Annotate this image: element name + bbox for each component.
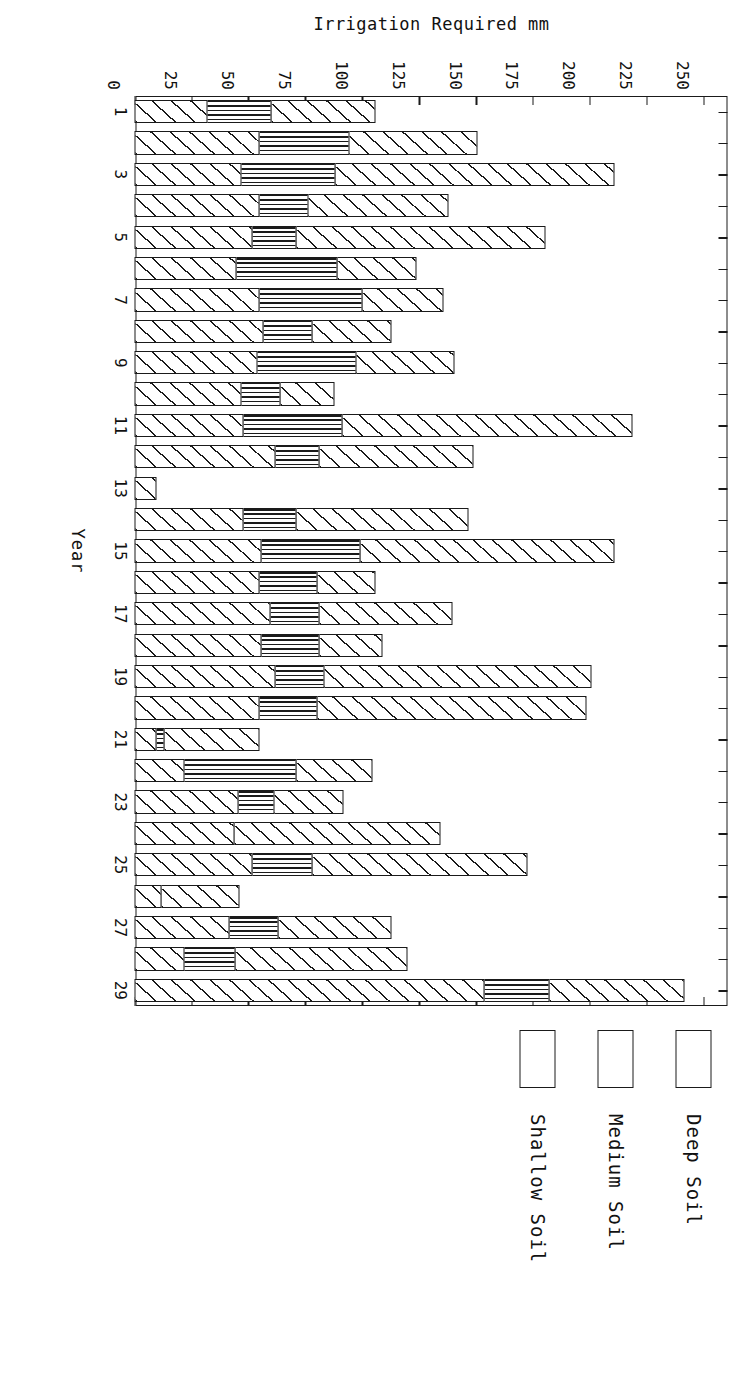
legend-label: Shallow Soil — [526, 1114, 548, 1263]
bar-segment-shallow-soil — [134, 100, 207, 123]
bar-segment-deep-soil — [318, 445, 473, 468]
bar-stack — [135, 226, 549, 249]
bar-segment-deep-soil — [277, 916, 391, 939]
bar-segment-medium-soil — [237, 790, 273, 813]
category-tick-label: 17 — [110, 604, 129, 623]
value-tick-label: 50 — [217, 71, 236, 90]
bar-stack — [135, 131, 481, 154]
bar-segment-shallow-soil — [134, 477, 157, 500]
legend-swatch-deep-soil — [675, 1030, 711, 1088]
bar-segment-medium-soil — [258, 571, 317, 594]
bar-segment-medium-soil — [258, 696, 317, 719]
category-tick-label: 29 — [110, 981, 129, 1000]
bar-segment-shallow-soil — [134, 947, 184, 970]
bar-stack — [135, 382, 338, 405]
legend-item: Shallow Soil — [519, 1030, 555, 1360]
bar-segment-medium-soil — [483, 979, 549, 1002]
bar-stack — [135, 445, 477, 468]
bar-segment-medium-soil — [235, 257, 337, 280]
category-tick-label: 11 — [110, 416, 129, 435]
bar-stack — [135, 163, 618, 186]
bar-segment-medium-soil — [258, 194, 308, 217]
value-tick-label: 25 — [160, 71, 179, 90]
bar-segment-medium-soil — [183, 947, 235, 970]
bar-segment-deep-soil — [279, 382, 334, 405]
bar-segment-shallow-soil — [134, 288, 259, 311]
bar-segment-shallow-soil — [134, 320, 264, 343]
value-tick-label: 150 — [445, 61, 464, 90]
value-tick-label: 100 — [331, 61, 350, 90]
bar-stack — [135, 790, 347, 813]
bar-stack — [135, 822, 442, 845]
bar-segment-deep-soil — [272, 790, 343, 813]
legend-item: Deep Soil — [675, 1030, 711, 1360]
bar-stack — [135, 759, 376, 782]
category-axis-title: Year — [67, 96, 87, 1006]
bar-segment-deep-soil — [295, 226, 545, 249]
bar-segment-shallow-soil — [134, 257, 236, 280]
value-tick-label: 225 — [616, 61, 635, 90]
figure: Irrigation Required mm 02550751001251501… — [0, 0, 749, 1374]
bar-segment-shallow-soil — [134, 665, 275, 688]
value-tick-label: 75 — [274, 71, 293, 90]
bar-segment-deep-soil — [233, 822, 440, 845]
category-tick-label: 23 — [110, 792, 129, 811]
value-tick-label: 175 — [502, 61, 521, 90]
bar-segment-medium-soil — [258, 288, 363, 311]
bar-stack — [135, 947, 411, 970]
bar-stack — [135, 696, 590, 719]
bar-stack — [135, 634, 385, 657]
bar-stack — [135, 508, 472, 531]
bar-segment-medium-soil — [228, 916, 278, 939]
value-tick-label: 250 — [673, 61, 692, 90]
bar-segment-shallow-soil — [134, 885, 161, 908]
bar-segment-shallow-soil — [134, 634, 262, 657]
bar-stack — [135, 539, 618, 562]
bar-segment-shallow-soil — [134, 539, 262, 562]
chart-page: Irrigation Required mm 02550751001251501… — [0, 0, 749, 1374]
bar-segment-medium-soil — [239, 163, 335, 186]
bar-segment-shallow-soil — [134, 853, 252, 876]
value-tick-label: 125 — [388, 61, 407, 90]
bar-segment-shallow-soil — [134, 351, 257, 374]
bar-stack — [135, 288, 447, 311]
bar-segment-deep-soil — [318, 634, 382, 657]
bar-segment-deep-soil — [311, 320, 391, 343]
bar-segment-deep-soil — [318, 602, 452, 625]
bar-segment-deep-soil — [359, 539, 614, 562]
bar-segment-shallow-soil — [134, 382, 241, 405]
category-tick-label: 13 — [110, 479, 129, 498]
bar-stack — [135, 979, 688, 1002]
bar-stack — [135, 194, 451, 217]
bar-stack — [135, 257, 420, 280]
bar-segment-deep-soil — [234, 947, 407, 970]
bar-stack — [135, 665, 595, 688]
bar-stack — [135, 571, 379, 594]
bar-segment-shallow-soil — [134, 414, 243, 437]
bar-segment-shallow-soil — [134, 916, 230, 939]
bar-segment-shallow-soil — [134, 445, 275, 468]
bar-segment-medium-soil — [258, 131, 349, 154]
category-tick-label: 15 — [110, 541, 129, 560]
bar-segment-medium-soil — [269, 602, 319, 625]
bar-segment-deep-soil — [270, 100, 375, 123]
value-tick-label: 200 — [559, 61, 578, 90]
bar-segment-deep-soil — [336, 257, 416, 280]
bar-segment-medium-soil — [251, 226, 297, 249]
bar-segment-shallow-soil — [134, 602, 271, 625]
bar-segment-deep-soil — [311, 853, 527, 876]
category-tick-label: 5 — [110, 232, 129, 242]
bar-segment-shallow-soil — [134, 163, 241, 186]
bar-segment-shallow-soil — [134, 194, 259, 217]
category-tick-label: 27 — [110, 918, 129, 937]
category-tick-label: 1 — [110, 107, 129, 117]
bar-stack — [135, 885, 242, 908]
bar-segment-medium-soil — [242, 508, 297, 531]
bar-segment-medium-soil — [260, 634, 319, 657]
category-tick-label: 7 — [110, 295, 129, 305]
legend-item: Medium Soil — [597, 1030, 633, 1360]
bar-segment-deep-soil — [548, 979, 685, 1002]
category-axis-tick-labels: 1357911131517192123252729 — [103, 96, 129, 1006]
bar-segment-medium-soil — [205, 100, 271, 123]
bar-stack — [135, 414, 636, 437]
